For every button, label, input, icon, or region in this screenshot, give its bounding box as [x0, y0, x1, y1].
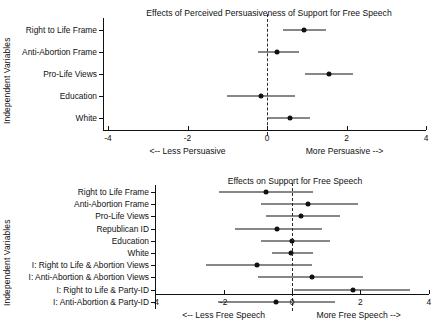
point-estimate-marker	[274, 226, 279, 231]
point-estimate-marker	[327, 72, 332, 77]
x-axis-tick-label: -2	[220, 297, 227, 307]
category-label: Pro-Life Views	[0, 211, 149, 221]
right-direction-label: More Persuasive -->	[306, 146, 384, 156]
right-direction-label: More Free Speech -->	[317, 310, 401, 320]
confidence-interval-bar	[261, 240, 330, 241]
x-axis-tick	[360, 290, 361, 294]
point-estimate-marker	[301, 28, 306, 33]
point-estimate-marker	[255, 263, 260, 268]
bottom-panel: Independent Variables Effects on Support…	[0, 166, 438, 332]
x-axis-tick	[347, 126, 348, 130]
category-label: Pro-Life Views	[0, 69, 97, 79]
x-axis-tick	[429, 290, 430, 294]
x-axis-tick	[108, 126, 109, 130]
left-direction-label: <-- Less Free Speech	[182, 310, 265, 320]
category-label: Anti-Abortion Frame	[0, 199, 149, 209]
x-axis-tick-label: -4	[151, 297, 158, 307]
x-axis-tick	[426, 126, 427, 130]
top-panel: Independent Variables Effects of Perceiv…	[0, 0, 438, 166]
point-estimate-marker	[350, 287, 355, 292]
left-direction-label: <-- Less Persuasive	[149, 146, 225, 156]
category-label: Education	[0, 91, 97, 101]
x-axis-tick-label: -2	[184, 133, 191, 143]
x-axis-tick	[267, 126, 268, 130]
x-axis-tick-label: 2	[358, 297, 363, 307]
x-axis-line	[103, 130, 426, 131]
top-plot-area: Right to Life FrameAnti-Abortion FramePr…	[0, 0, 438, 166]
x-axis-tick	[188, 126, 189, 130]
category-label: I: Anti-Abortion & Party-ID	[0, 297, 149, 307]
category-label: Right to Life Frame	[0, 187, 149, 197]
category-label: White	[0, 113, 97, 123]
x-axis-tick-label: -4	[104, 133, 111, 143]
category-label: Republican ID	[0, 224, 149, 234]
x-axis-line	[155, 294, 429, 295]
category-label: White	[0, 248, 149, 258]
category-label: I: Anti-Abortion & Abortion Views	[0, 272, 149, 282]
point-estimate-marker	[309, 275, 314, 280]
point-estimate-marker	[274, 50, 279, 55]
zero-reference-line	[267, 14, 268, 135]
point-estimate-marker	[298, 214, 303, 219]
category-label: Anti-Abortion Frame	[0, 47, 97, 57]
category-label: I: Right to Life & Party-ID	[0, 285, 149, 295]
point-estimate-marker	[259, 94, 264, 99]
point-estimate-marker	[264, 190, 269, 195]
x-axis-tick	[224, 290, 225, 294]
point-estimate-marker	[306, 202, 311, 207]
x-axis-tick	[292, 290, 293, 294]
bottom-plot-area: Right to Life FrameAnti-Abortion FramePr…	[0, 166, 438, 332]
category-label: Education	[0, 236, 149, 246]
x-axis-tick-label: 4	[426, 297, 431, 307]
x-axis-tick-label: 4	[424, 133, 429, 143]
y-axis-spine	[103, 18, 104, 130]
x-axis-tick-label: 0	[265, 133, 270, 143]
category-label: Right to Life Frame	[0, 25, 97, 35]
point-estimate-marker	[288, 116, 293, 121]
x-axis-tick-label: 0	[290, 297, 295, 307]
category-label: I: Right to Life & Abortion Views	[0, 260, 149, 270]
x-axis-tick-label: 2	[344, 133, 349, 143]
point-estimate-marker	[273, 299, 278, 304]
x-axis-tick	[155, 290, 156, 294]
